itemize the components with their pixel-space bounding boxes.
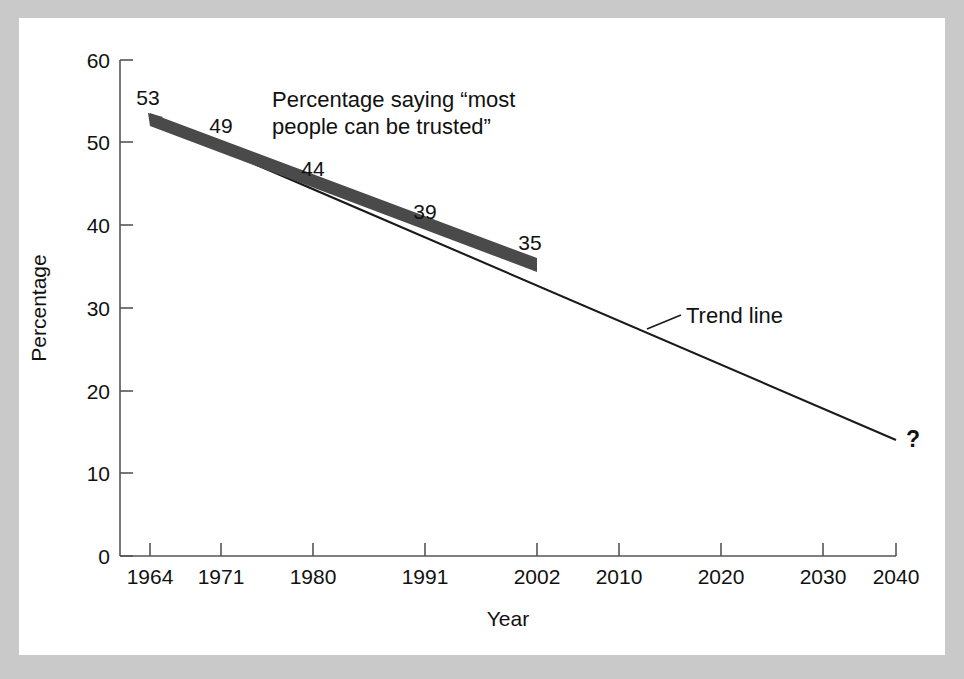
y-axis-tick-labels: 60 50 40 30 20 10 0 — [87, 49, 110, 568]
y-tick-label-10: 10 — [87, 462, 110, 485]
data-label-2002: 35 — [518, 231, 541, 254]
x-tick-label-1991: 1991 — [402, 565, 449, 588]
x-axis-ticks — [150, 543, 896, 556]
y-axis-ticks — [120, 60, 133, 556]
y-tick-label-60: 60 — [87, 49, 110, 72]
x-tick-label-1980: 1980 — [290, 565, 337, 588]
y-tick-label-0: 0 — [98, 545, 110, 568]
y-tick-label-20: 20 — [87, 380, 110, 403]
y-tick-label-40: 40 — [87, 214, 110, 237]
data-label-1971: 49 — [209, 114, 232, 137]
x-tick-label-2002: 2002 — [514, 565, 561, 588]
trend-endpoint-question-mark: ? — [906, 426, 920, 452]
x-tick-label-2010: 2010 — [596, 565, 643, 588]
x-tick-label-2040: 2040 — [873, 565, 920, 588]
series-annotation-line-2: people can be trusted” — [272, 114, 491, 139]
series-annotation: Percentage saying “most people can be tr… — [272, 87, 515, 139]
trend-line-annotation: Trend line — [647, 303, 783, 329]
x-tick-label-2030: 2030 — [800, 565, 847, 588]
y-tick-label-50: 50 — [87, 131, 110, 154]
data-label-1991: 39 — [413, 200, 436, 223]
x-axis-tick-labels: 1964 1971 1980 1991 2002 2010 2020 2030 … — [127, 565, 920, 588]
y-tick-label-30: 30 — [87, 297, 110, 320]
data-label-1964: 53 — [136, 86, 159, 109]
series-annotation-line-1: Percentage saying “most — [272, 87, 515, 112]
x-tick-label-2020: 2020 — [698, 565, 745, 588]
trend-annotation-leader-line — [647, 315, 681, 329]
y-axis-title: Percentage — [27, 254, 50, 361]
data-label-1980: 44 — [301, 157, 325, 180]
trust-percentage-line-chart: 60 50 40 30 20 10 0 1964 1971 1980 1991 … — [0, 0, 964, 679]
x-tick-label-1971: 1971 — [198, 565, 245, 588]
trend-annotation-label: Trend line — [686, 303, 783, 328]
x-axis-title: Year — [487, 607, 529, 630]
x-tick-label-1964: 1964 — [127, 565, 174, 588]
